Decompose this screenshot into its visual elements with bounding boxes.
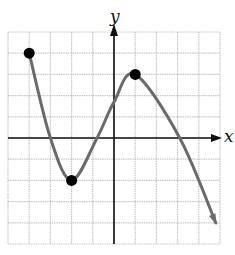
point-relative-minimum — [66, 175, 77, 186]
y-axis-label: y — [109, 6, 120, 26]
point-left-endpoint — [24, 48, 35, 59]
point-relative-maximum — [130, 69, 141, 80]
function-graph: y x — [0, 0, 235, 255]
axes — [8, 24, 222, 244]
x-axis-label: x — [224, 126, 234, 146]
